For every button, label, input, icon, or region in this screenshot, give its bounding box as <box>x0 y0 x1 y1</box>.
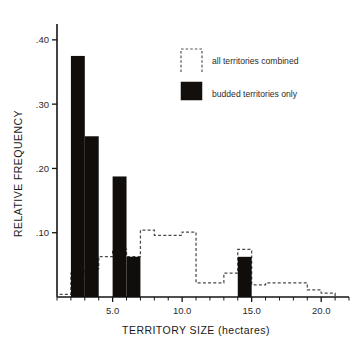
chart-legend: all territories combined budded territor… <box>181 49 299 100</box>
y-tick-label: .40 <box>36 34 49 45</box>
histogram-bar <box>71 56 85 297</box>
x-tick-label: 10.0 <box>173 305 192 316</box>
y-axis-title: RELATIVE FREQUENCY <box>12 110 24 237</box>
histogram-bar <box>85 136 99 297</box>
x-tick-label: 15.0 <box>242 305 261 316</box>
histogram-bar <box>127 257 141 297</box>
x-axis-title: TERRITORY SIZE (hectares) <box>122 324 270 336</box>
y-tick-label: .20 <box>36 163 49 174</box>
legend-label-budded-only: budded territories only <box>212 89 298 99</box>
y-tick-label: .10 <box>36 227 49 238</box>
legend-swatch-budded-only <box>181 82 202 100</box>
x-tick-label: 5.0 <box>106 305 119 316</box>
legend-label-all-combined: all territories combined <box>212 56 299 66</box>
histogram-bar <box>238 257 252 297</box>
y-axis-tick-labels: .10.20.30.40 <box>36 34 49 238</box>
territory-size-histogram: RELATIVE FREQUENCY .10.20.30.40 5.010.01… <box>0 0 362 344</box>
y-tick-label: .30 <box>36 99 49 110</box>
histogram-bar <box>113 176 127 297</box>
x-axis-tick-labels: 5.010.015.020.0 <box>106 305 330 316</box>
histogram-figure: RELATIVE FREQUENCY .10.20.30.40 5.010.01… <box>0 0 362 344</box>
x-tick-label: 20.0 <box>312 305 331 316</box>
legend-swatch-all-combined <box>181 49 202 72</box>
